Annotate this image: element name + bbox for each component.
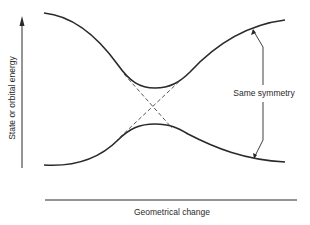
y-axis-label: State or orbital energy [7,55,17,139]
y-axis-arrow-icon [20,16,25,26]
diabatic-line-ascending [117,77,184,140]
annotation-label: Same symmetry [233,88,295,98]
diabatic-line-descending [124,74,172,128]
symmetry-bracket-lower [254,102,263,158]
upper-state-curve [44,13,285,88]
lower-state-curve [44,124,285,165]
x-axis-label: Geometrical change [134,207,210,217]
diagram-canvas: State or orbital energy Geometrical chan… [0,0,310,225]
symmetry-bracket-upper [253,30,263,85]
